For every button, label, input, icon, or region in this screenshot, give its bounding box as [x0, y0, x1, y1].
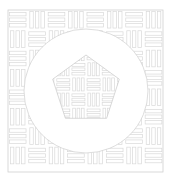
artboard: [0, 0, 172, 181]
circle-mask: [24, 29, 148, 153]
pattern-illustration: [0, 0, 172, 181]
